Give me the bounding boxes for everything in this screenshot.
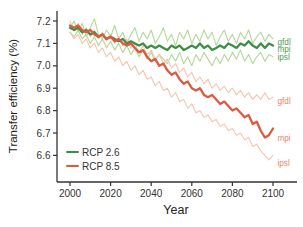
y-tick-label: 6.7 [37, 128, 51, 139]
transfer-efficiency-chart: 2000202020402060208021007.27.17.06.96.86… [0, 0, 303, 227]
y-tick-label: 6.8 [37, 105, 51, 116]
line-end-label-ipsl: ipsl [278, 53, 290, 62]
y-tick-label: 7.2 [37, 16, 51, 27]
series-rcp85-gfdl [70, 21, 273, 99]
x-tick-label: 2000 [59, 188, 82, 199]
x-tick-label: 2020 [99, 188, 122, 199]
legend: RCP 2.6 RCP 8.5 [66, 145, 120, 173]
y-tick-label: 7.1 [37, 38, 51, 49]
series-rcp26-mpi [70, 28, 273, 50]
line-end-label-mpi: mpi [278, 134, 291, 143]
legend-label-rcp26: RCP 2.6 [82, 147, 120, 158]
legend-label-rcp85: RCP 8.5 [82, 161, 120, 172]
plot-area: 2000202020402060208021007.27.17.06.96.86… [0, 0, 303, 227]
x-tick-label: 2080 [221, 188, 244, 199]
rcp85-line-swatch [66, 165, 79, 168]
x-tick-label: 2100 [262, 188, 285, 199]
series-rcp85-ipsl [70, 32, 273, 160]
line-end-label-ipsl: ipsl [278, 159, 290, 168]
line-end-label-gfdl: gfdl [278, 97, 291, 106]
legend-item-rcp85: RCP 8.5 [66, 159, 120, 173]
rcp26-line-swatch [66, 151, 79, 154]
x-tick-label: 2040 [140, 188, 163, 199]
y-tick-label: 6.9 [37, 83, 51, 94]
y-tick-label: 7.0 [37, 60, 51, 71]
y-tick-label: 6.6 [37, 150, 51, 161]
legend-item-rcp26: RCP 2.6 [66, 145, 120, 159]
x-tick-label: 2060 [181, 188, 204, 199]
x-axis-title: Year [163, 203, 188, 217]
y-axis-title: Transfer efficiency (%) [7, 39, 19, 153]
